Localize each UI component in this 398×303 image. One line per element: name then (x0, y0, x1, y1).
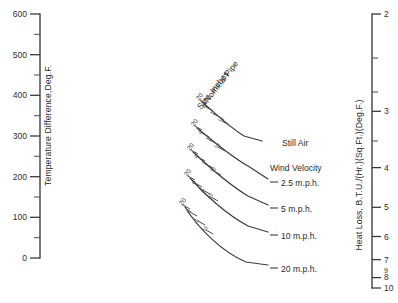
right-axis-label-6: 6 (384, 232, 389, 242)
left-axis-label-200: 200 (13, 172, 27, 182)
left-axis-label-500: 500 (13, 50, 27, 60)
right-axis-label-5: 5 (384, 202, 389, 212)
left-axis: 600 500 400 300 200 100 0 Temperature Di… (13, 9, 53, 263)
pipe-label-w25-20: 20 (189, 117, 199, 127)
right-axis-label-3: 3 (384, 106, 389, 116)
pipe-label-w10-20: 20 (182, 167, 192, 177)
wind-velocity-group-label: Wind Velocity (270, 163, 322, 173)
curve-wind-20-line (185, 207, 268, 265)
curve-wind-2-5: 20 4 1 ½ 2.5 m.p.h. (189, 117, 319, 188)
right-axis-label-7: 7 (384, 255, 389, 265)
pipe-label-w20-1: 1 (192, 216, 200, 223)
right-axis-label-4: 4 (384, 163, 389, 173)
left-axis-label-300: 300 (13, 131, 27, 141)
right-axis-label-2: 2 (384, 9, 389, 19)
curve-label-still-air: Still Air (282, 138, 308, 148)
curve-label-wind-2-5: 2.5 m.p.h. (281, 178, 319, 188)
curve-still-air-line (202, 102, 262, 141)
right-axis-title: Heat Loss, B.T.U./(Hr.)(Sq.Ft.)(Deg.F.) (354, 99, 364, 250)
right-axis-label-10: 10 (384, 283, 394, 293)
left-axis-label-600: 600 (13, 9, 27, 19)
curve-label-wind-5: 5 m.p.h. (281, 204, 312, 214)
curve-label-wind-20: 20 m.p.h. (281, 264, 317, 274)
left-axis-title: Temperature Difference,Deg.F. (43, 65, 53, 186)
nomograph-canvas: 600 500 400 300 200 100 0 Temperature Di… (0, 0, 398, 303)
right-axis: 2 3 4 5 6 7 8 9 10 Heat Loss, B.T.U./(Hr… (354, 9, 394, 293)
right-axis-label-9-visible: 9 (384, 266, 388, 275)
left-axis-label-400: 400 (13, 90, 27, 100)
left-axis-label-0: 0 (22, 253, 27, 263)
curve-label-wind-10: 10 m.p.h. (281, 231, 317, 241)
curve-wind-2-5-line (197, 128, 268, 179)
curve-wind-10-line (190, 178, 268, 232)
pipe-label-w20-20: 20 (177, 196, 187, 206)
pipe-label-w5-20: 20 (185, 141, 195, 151)
left-axis-label-100: 100 (13, 212, 27, 222)
curve-wind-5-line (193, 152, 268, 205)
